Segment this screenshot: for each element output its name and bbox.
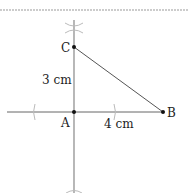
ab-length-label: 4 cm — [104, 117, 134, 131]
point-a-label: A — [60, 116, 70, 130]
segment-cb — [74, 47, 163, 112]
point-b-label: B — [167, 106, 176, 120]
point-c-dot — [72, 45, 76, 49]
ac-length-label: 3 cm — [42, 73, 72, 87]
point-c-label: C — [61, 41, 70, 55]
point-b-dot — [161, 110, 165, 114]
triangle-construction-diagram: C A B 3 cm 4 cm — [0, 0, 189, 193]
point-a-dot — [72, 110, 76, 114]
